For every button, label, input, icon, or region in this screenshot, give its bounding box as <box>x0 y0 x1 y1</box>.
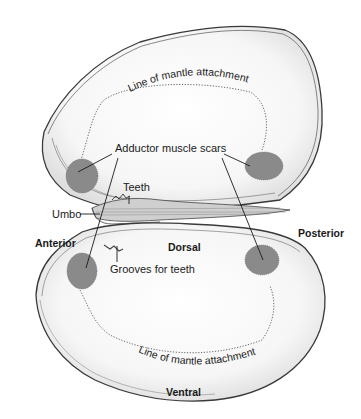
adductor-scar-upper-posterior <box>245 152 283 180</box>
label-grooves-for-teeth: Grooves for teeth <box>110 263 195 275</box>
diagram-canvas: Line of mantle attachment Adductor muscl… <box>0 0 361 419</box>
bivalve-diagram: Line of mantle attachment Adductor muscl… <box>0 0 361 419</box>
adductor-scar-lower-posterior <box>245 245 279 275</box>
label-umbo: Umbo <box>52 208 81 220</box>
label-posterior: Posterior <box>298 227 344 239</box>
upper-valve <box>42 26 322 212</box>
label-ventral: Ventral <box>166 386 201 398</box>
label-anterior: Anterior <box>35 237 76 249</box>
label-adductor-muscle-scars: Adductor muscle scars <box>115 142 227 154</box>
adductor-scar-lower-anterior <box>67 253 97 289</box>
label-teeth: Teeth <box>123 181 150 193</box>
label-dorsal: Dorsal <box>168 241 201 253</box>
